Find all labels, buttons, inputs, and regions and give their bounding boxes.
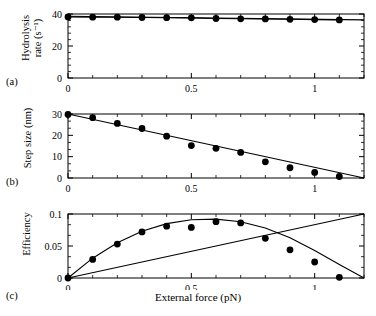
- svg-text:10: 10: [52, 151, 62, 162]
- panel-a-plot: 00.5102040: [0, 0, 376, 100]
- svg-text:20: 20: [52, 130, 62, 141]
- panel-a-ylabel-line1: Hydrolysis: [20, 0, 32, 78]
- svg-text:0.5: 0.5: [185, 183, 198, 194]
- svg-text:1: 1: [312, 183, 317, 194]
- svg-text:0.05: 0.05: [45, 241, 63, 252]
- svg-text:0: 0: [57, 73, 62, 84]
- panel-b: Step size (nm) (b) 00.510102030: [0, 100, 376, 200]
- panel-b-plot: 00.510102030: [0, 100, 376, 200]
- panel-a: Hydrolysis rate (s⁻¹) (a) 00.5102040: [0, 0, 376, 100]
- panel-a-ylabel: Hydrolysis rate (s⁻¹): [20, 0, 44, 78]
- panel-a-ylabel-line2: rate (s⁻¹): [32, 0, 44, 78]
- svg-text:1: 1: [312, 83, 317, 94]
- svg-text:0.5: 0.5: [185, 83, 198, 94]
- svg-text:0: 0: [66, 283, 71, 290]
- svg-text:30: 30: [52, 109, 62, 120]
- panel-a-label: (a): [6, 76, 18, 87]
- svg-text:0: 0: [66, 83, 71, 94]
- svg-text:1: 1: [312, 283, 317, 290]
- panel-b-ylabel: Step size (nm): [22, 93, 34, 183]
- panel-b-ylabel-line1: Step size (nm): [22, 93, 34, 183]
- svg-text:40: 40: [52, 9, 62, 20]
- panel-c-ylabel: Efficiency: [21, 194, 33, 274]
- figure-xlabel: External force (pN): [10, 291, 376, 303]
- svg-text:0: 0: [57, 273, 62, 284]
- panel-c: Efficiency (c) 00.5100.050.1 External fo…: [0, 200, 376, 316]
- svg-text:0.5: 0.5: [185, 283, 198, 290]
- svg-text:0: 0: [66, 183, 71, 194]
- panel-c-ylabel-line1: Efficiency: [21, 194, 33, 274]
- svg-text:20: 20: [52, 41, 62, 52]
- svg-text:0: 0: [57, 173, 62, 184]
- figure-container: Hydrolysis rate (s⁻¹) (a) 00.5102040 Ste…: [0, 0, 376, 316]
- panel-c-plot: 00.5100.050.1: [0, 200, 376, 290]
- panel-b-label: (b): [6, 176, 18, 187]
- svg-text:0.1: 0.1: [50, 209, 63, 220]
